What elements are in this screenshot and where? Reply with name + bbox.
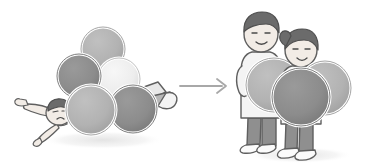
person-left-hand <box>15 99 28 106</box>
boy-leg-right <box>262 118 276 146</box>
illustration-svg <box>0 0 366 168</box>
illustration-canvas: Heavy load carried alone versus shared b… <box>0 0 366 168</box>
left-pile-shadow <box>43 131 163 149</box>
boy-leg-left <box>247 118 261 146</box>
